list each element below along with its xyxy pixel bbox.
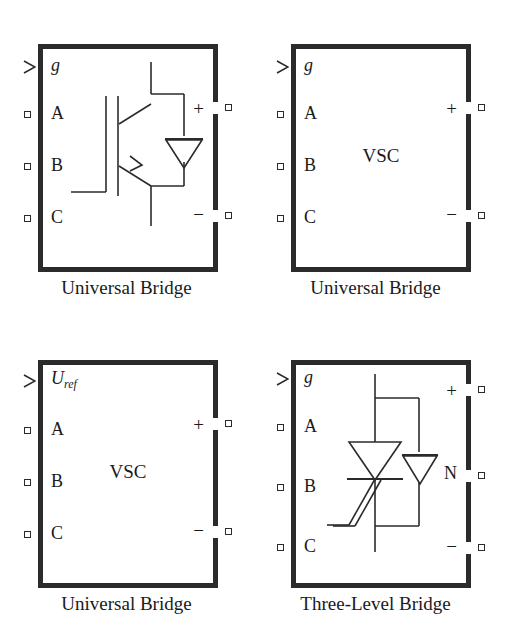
block-caption: Universal Bridge xyxy=(249,277,502,299)
output-port-plus-square[interactable] xyxy=(225,104,232,111)
input-port-uref-arrow[interactable] xyxy=(23,374,36,388)
input-port-label-b: B xyxy=(304,156,316,174)
input-port-label-g: g xyxy=(51,56,60,74)
input-port-b-square[interactable] xyxy=(24,163,31,170)
block-edge-right xyxy=(213,114,218,210)
output-port-label-minus: − xyxy=(446,205,457,224)
input-port-c-square[interactable] xyxy=(277,215,284,222)
input-port-label-uref-subscript: ref xyxy=(64,377,77,391)
input-port-label-g: g xyxy=(304,368,313,386)
block-edge-top xyxy=(38,44,218,49)
block-edge-bottom xyxy=(38,267,218,272)
output-port-label-plus: + xyxy=(446,381,457,400)
input-port-g-arrow[interactable] xyxy=(23,60,36,74)
input-port-c-square[interactable] xyxy=(24,215,31,222)
block-edge-left xyxy=(38,44,43,272)
block-edge-right xyxy=(466,396,471,470)
block-universal-bridge-igbt[interactable]: g A B C + − Universal Bridge xyxy=(0,0,253,316)
block-edge-right xyxy=(213,538,218,588)
block-edge-right xyxy=(213,222,218,272)
input-port-label-a: A xyxy=(304,104,317,122)
output-port-plus-square[interactable] xyxy=(478,386,485,393)
input-port-c-square[interactable] xyxy=(24,531,31,538)
output-port-label-minus: − xyxy=(193,521,204,540)
block-edge-right xyxy=(213,360,218,418)
input-port-label-c: C xyxy=(304,537,316,555)
output-port-minus-square[interactable] xyxy=(225,212,232,219)
block-edge-right xyxy=(213,44,218,102)
block-center-label: VSC xyxy=(38,462,218,481)
input-port-a-square[interactable] xyxy=(24,427,31,434)
block-outline: VSC g A B C + − xyxy=(291,44,471,272)
block-center-label: VSC xyxy=(291,146,471,165)
input-port-a-square[interactable] xyxy=(277,111,284,118)
block-edge-right xyxy=(466,482,471,542)
input-port-b-square[interactable] xyxy=(24,479,31,486)
output-port-minus-square[interactable] xyxy=(478,544,485,551)
block-edge-right xyxy=(466,360,471,384)
input-port-label-a: A xyxy=(51,420,64,438)
block-universal-bridge-vsc-uref[interactable]: VSC Uref A B C + − Universal Bridge xyxy=(0,316,253,632)
output-port-minus-square[interactable] xyxy=(478,212,485,219)
output-port-label-minus: − xyxy=(193,205,204,224)
block-edge-bottom xyxy=(291,583,471,588)
input-port-label-b: B xyxy=(51,156,63,174)
output-port-n-square[interactable] xyxy=(478,472,485,479)
input-port-label-uref: Uref xyxy=(51,369,77,387)
block-caption: Three-Level Bridge xyxy=(249,593,502,615)
output-port-minus-square[interactable] xyxy=(225,528,232,535)
output-port-label-minus: − xyxy=(446,537,457,556)
input-port-label-a: A xyxy=(51,104,64,122)
igbt-with-antiparallel-diode-symbol xyxy=(38,44,218,272)
output-port-plus-square[interactable] xyxy=(225,420,232,427)
input-port-label-b: B xyxy=(51,472,63,490)
block-edge-top xyxy=(291,360,471,365)
output-port-label-plus: + xyxy=(193,99,204,118)
block-outline: g A B C + N − xyxy=(291,360,471,588)
block-edge-right xyxy=(466,44,471,102)
block-caption: Universal Bridge xyxy=(0,277,253,299)
input-port-b-square[interactable] xyxy=(277,484,284,491)
input-port-label-a: A xyxy=(304,417,317,435)
output-port-label-n: N xyxy=(444,464,457,482)
block-universal-bridge-vsc-g[interactable]: VSC g A B C + − Universal Bridge xyxy=(253,0,506,316)
block-outline: VSC Uref A B C + − xyxy=(38,360,218,588)
input-port-a-square[interactable] xyxy=(24,111,31,118)
block-edge-left xyxy=(291,360,296,588)
block-edge-bottom xyxy=(291,267,471,272)
input-port-label-c: C xyxy=(51,208,63,226)
input-port-a-square[interactable] xyxy=(277,424,284,431)
block-edge-right xyxy=(466,222,471,272)
input-port-g-arrow[interactable] xyxy=(276,372,289,386)
output-port-label-plus: + xyxy=(193,415,204,434)
block-edge-top xyxy=(38,360,218,365)
output-port-plus-square[interactable] xyxy=(478,104,485,111)
block-caption: Universal Bridge xyxy=(0,593,253,615)
block-edge-top xyxy=(291,44,471,49)
input-port-label-c: C xyxy=(304,208,316,226)
input-port-label-g: g xyxy=(304,56,313,74)
block-edge-bottom xyxy=(38,583,218,588)
input-port-b-square[interactable] xyxy=(277,163,284,170)
input-port-label-b: B xyxy=(304,477,316,495)
figure-sheet: g A B C + − Universal Bridge VSC xyxy=(0,0,506,632)
block-three-level-bridge-gto[interactable]: g A B C + N − Three-Level Bridge xyxy=(253,316,506,632)
input-port-g-arrow[interactable] xyxy=(276,60,289,74)
block-edge-right xyxy=(466,554,471,588)
input-port-c-square[interactable] xyxy=(277,544,284,551)
block-outline: g A B C + − xyxy=(38,44,218,272)
input-port-label-c: C xyxy=(51,524,63,542)
output-port-label-plus: + xyxy=(446,99,457,118)
